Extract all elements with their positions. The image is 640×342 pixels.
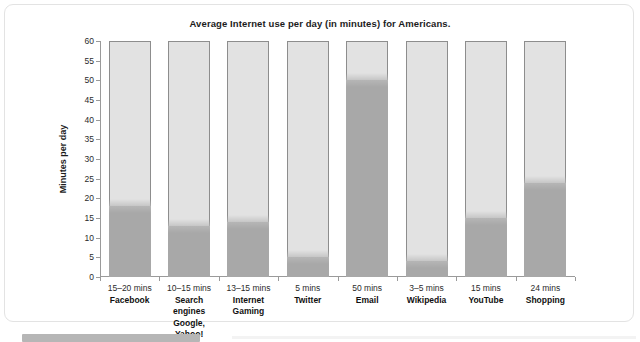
y-tick-label: 55 (58, 56, 94, 66)
y-tick-label: 50 (58, 75, 94, 85)
bar-fill (524, 183, 566, 277)
x-tick-mark (397, 277, 398, 281)
y-tick-label: 25 (58, 174, 94, 184)
category-name: Email (338, 295, 397, 307)
screenshot-root: Average Internet use per day (in minutes… (0, 0, 640, 342)
x-tick-mark (278, 277, 279, 281)
y-tick-label: 35 (58, 134, 94, 144)
y-axis-line (100, 41, 101, 277)
category-name: Facebook (100, 295, 159, 307)
x-category-label: 3–5 minsWikipedia (397, 283, 456, 306)
y-tick-label: 60 (58, 36, 94, 46)
bar-fill (109, 206, 151, 277)
y-tick-mark (96, 139, 100, 140)
x-tick-mark (516, 277, 517, 281)
y-tick-label: 15 (58, 213, 94, 223)
y-tick-label: 40 (58, 115, 94, 125)
chart-title: Average Internet use per day (in minutes… (5, 18, 635, 29)
category-name: Shopping (516, 295, 575, 307)
y-tick-label: 30 (58, 154, 94, 164)
bar-fill (406, 261, 448, 277)
y-tick-mark (96, 179, 100, 180)
category-minutes: 5 mins (278, 283, 337, 295)
x-axis-labels: 15–20 minsFacebook10–15 minsSearch engin… (100, 283, 575, 323)
y-tick-mark (96, 120, 100, 121)
bar-column[interactable] (524, 41, 566, 277)
x-tick-mark (219, 277, 220, 281)
category-name: YouTube (456, 295, 515, 307)
bar-column[interactable] (109, 41, 151, 277)
bar-column[interactable] (465, 41, 507, 277)
x-category-label: 50 minsEmail (338, 283, 397, 306)
bar-fill (346, 80, 388, 277)
bar-column[interactable] (287, 41, 329, 277)
y-tick-mark (96, 100, 100, 101)
bar-track (406, 41, 448, 277)
y-tick-mark (96, 198, 100, 199)
category-minutes: 10–15 mins (159, 283, 218, 295)
category-minutes: 15–20 mins (100, 283, 159, 295)
page-footer-line-fragment (232, 336, 636, 339)
x-category-label: 24 minsShopping (516, 283, 575, 306)
y-tick-mark (96, 218, 100, 219)
bar-fill (168, 226, 210, 277)
bar-column[interactable] (346, 41, 388, 277)
bar-track (287, 41, 329, 277)
bar-column[interactable] (406, 41, 448, 277)
x-tick-mark (338, 277, 339, 281)
category-name-line2: Gaming (219, 306, 278, 318)
bar-fill (287, 257, 329, 277)
bar-fill (465, 218, 507, 277)
category-minutes: 15 mins (456, 283, 515, 295)
y-tick-mark (96, 41, 100, 42)
y-tick-label: 5 (58, 252, 94, 262)
page-footer-bar-fragment (22, 334, 200, 342)
y-tick-mark (96, 238, 100, 239)
x-tick-mark (575, 277, 576, 281)
category-minutes: 3–5 mins (397, 283, 456, 295)
bar-fill (227, 222, 269, 277)
category-minutes: 50 mins (338, 283, 397, 295)
x-category-label: 5 minsTwitter (278, 283, 337, 306)
plot-area: 051015202530354045505560 (100, 41, 575, 277)
x-category-label: 13–15 minsInternetGaming (219, 283, 278, 318)
y-tick-mark (96, 80, 100, 81)
y-tick-label: 10 (58, 233, 94, 243)
y-tick-label: 45 (58, 95, 94, 105)
x-category-label: 15–20 minsFacebook (100, 283, 159, 306)
x-tick-mark (100, 277, 101, 281)
category-name: Twitter (278, 295, 337, 307)
chart-card: Average Internet use per day (in minutes… (4, 4, 634, 322)
x-tick-mark (456, 277, 457, 281)
x-category-label: 10–15 minsSearch enginesGoogle, Yahoo! (159, 283, 218, 341)
category-minutes: 13–15 mins (219, 283, 278, 295)
y-tick-label: 20 (58, 193, 94, 203)
x-category-label: 15 minsYouTube (456, 283, 515, 306)
y-tick-mark (96, 159, 100, 160)
x-tick-mark (159, 277, 160, 281)
category-name: Internet (219, 295, 278, 307)
bar-column[interactable] (168, 41, 210, 277)
y-tick-mark (96, 61, 100, 62)
y-tick-mark (96, 257, 100, 258)
category-name: Search engines (159, 295, 218, 318)
bar-column[interactable] (227, 41, 269, 277)
y-tick-label: 0 (58, 272, 94, 282)
category-name: Wikipedia (397, 295, 456, 307)
category-minutes: 24 mins (516, 283, 575, 295)
